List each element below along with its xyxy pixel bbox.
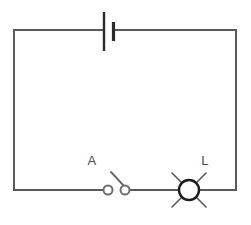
switch-left-terminal — [104, 186, 113, 195]
lamp-ray-upper-right — [197, 173, 206, 182]
lamp-ray-lower-right — [197, 198, 206, 207]
lamp-ray-upper-left — [172, 173, 181, 182]
switch-lever[interactable] — [111, 172, 124, 186]
switch-right-terminal — [121, 186, 130, 195]
switch-label: A — [87, 153, 96, 168]
open-switch-icon[interactable] — [104, 172, 130, 195]
circuit-diagram-canvas: A L — [0, 0, 251, 225]
battery-cell-icon — [104, 12, 114, 51]
lamp-ray-lower-left — [172, 198, 181, 207]
circuit-schematic: A L — [0, 0, 251, 225]
lamp-bulb-outline — [179, 180, 199, 200]
lamp-label: L — [201, 153, 209, 168]
